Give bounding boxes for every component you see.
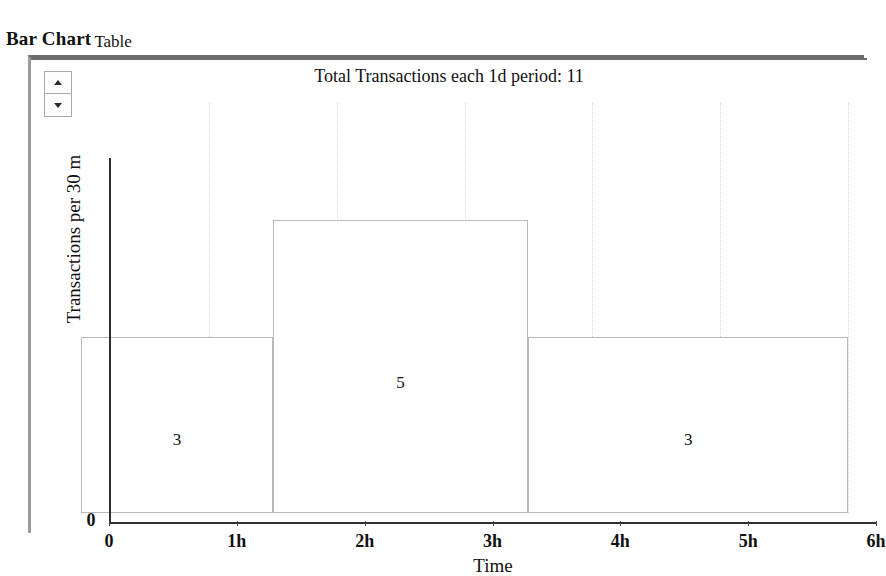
chart-title: Total Transactions each 1d period: 11 — [31, 66, 867, 87]
x-axis-tick-mark — [365, 521, 366, 526]
tab-bar: Bar Chart Table — [6, 22, 132, 48]
x-axis-tick-mark — [748, 521, 749, 526]
y-axis-title: Transactions per 30 m — [63, 124, 85, 354]
x-axis-title: Time — [473, 555, 512, 576]
panel-top-border — [31, 58, 867, 60]
chart-panel: Total Transactions each 1d period: 11 35… — [28, 55, 864, 533]
x-axis-tick-label-2h: 2h — [355, 531, 374, 552]
bar-3[interactable]: 3 — [528, 337, 848, 513]
x-axis-tick-mark — [876, 521, 877, 526]
x-axis-tick-label-1h: 1h — [227, 531, 246, 552]
bar-2[interactable]: 5 — [273, 220, 529, 513]
triangle-down-icon — [54, 103, 62, 108]
spinner-decrement-button[interactable] — [44, 94, 72, 117]
y-axis-line — [109, 158, 111, 524]
x-axis-tick-label-3h: 3h — [483, 531, 502, 552]
plot-area: 353 — [81, 103, 848, 513]
y-axis-tick-label-0: 0 — [87, 510, 96, 531]
x-axis-tick-label-0: 0 — [105, 531, 114, 552]
gridline-vertical — [848, 103, 849, 513]
x-axis-tick-label-4h: 4h — [611, 531, 630, 552]
x-axis-tick-label-6h: 6h — [866, 531, 885, 552]
bar-value-label: 3 — [529, 430, 847, 450]
x-axis-tick-mark — [109, 521, 110, 526]
x-axis-tick-mark — [237, 521, 238, 526]
x-axis-tick-mark — [620, 521, 621, 526]
x-axis-tick-label-5h: 5h — [739, 531, 758, 552]
tab-table[interactable]: Table — [94, 33, 132, 50]
bar-value-label: 5 — [274, 373, 528, 393]
tab-bar-chart[interactable]: Bar Chart — [6, 29, 91, 48]
x-axis-tick-mark — [493, 521, 494, 526]
